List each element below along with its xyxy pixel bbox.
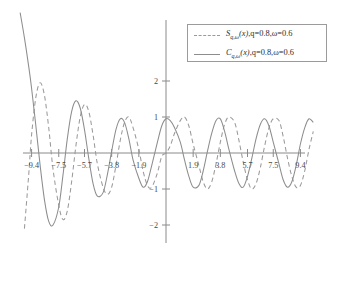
x-tick-label: 3.8 — [215, 161, 225, 170]
x-tick-label: −1.9 — [131, 161, 146, 170]
x-tick-label: 1.9 — [188, 161, 198, 170]
x-tick-label: 9.4 — [295, 161, 305, 170]
solid-line-sample — [194, 50, 220, 58]
x-tick-label: 5.7 — [242, 161, 252, 170]
x-tick-label: −7.5 — [51, 161, 66, 170]
x-tick-label: 7.5 — [268, 161, 278, 170]
legend: Sq,ω(x),q=0.8,ω=0.6 Cq,ω(x),q=0.8,ω=0.6 — [187, 24, 327, 62]
dashed-line-sample — [194, 31, 220, 39]
y-tick-label: 2 — [154, 77, 158, 86]
x-tick-label: −9.4 — [24, 161, 39, 170]
legend-label-s: Sq,ω(x),q=0.8,ω=0.6 — [226, 29, 293, 40]
legend-item-s: Sq,ω(x),q=0.8,ω=0.6 — [188, 25, 326, 44]
y-tick-label: −1 — [149, 185, 158, 194]
x-tick-label-group: −9.4−7.5−5.7−3.8−1.91.93.85.77.59.4 — [24, 161, 305, 170]
curve-s-dashed — [24, 83, 313, 229]
x-tick-label: −3.8 — [104, 161, 119, 170]
y-tick-label: −2 — [149, 221, 158, 230]
legend-item-c: Cq,ω(x),q=0.8,ω=0.6 — [188, 44, 326, 63]
y-tick-label: 1 — [154, 113, 158, 122]
x-tick-label: −5.7 — [77, 161, 92, 170]
legend-label-c: Cq,ω(x),q=0.8,ω=0.6 — [226, 48, 294, 59]
plot-figure: −9.4−7.5−5.7−3.8−1.91.93.85.77.59.4 21−1… — [0, 0, 339, 282]
